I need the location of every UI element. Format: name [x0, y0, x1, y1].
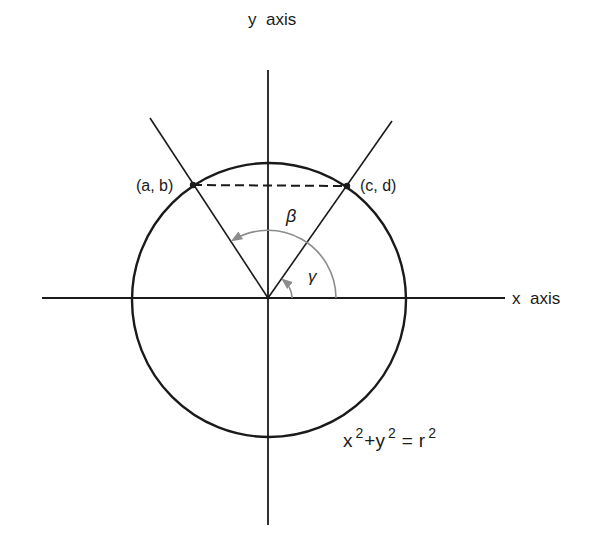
- y-axis-label: y axis: [248, 10, 296, 29]
- circle: [132, 163, 406, 437]
- beta-label: β: [285, 206, 296, 226]
- point-c-d: [344, 183, 350, 189]
- point-a-b: [190, 182, 196, 188]
- point-a-b-label: (a, b): [136, 177, 173, 194]
- point-c-d-label: (c, d): [360, 177, 396, 194]
- circle-equation: x2+y2=r2: [343, 425, 436, 451]
- dashed-chord: [193, 185, 347, 186]
- gamma-label: γ: [308, 267, 318, 286]
- svg-text:x2+y2=r2: x2+y2=r2: [343, 425, 436, 451]
- x-axis-label: x axis: [512, 289, 560, 308]
- gamma-arc: [283, 280, 292, 298]
- circle-diagram: y axis x axis (a, b) (c, d) β γ x2+y2=r2: [0, 0, 599, 542]
- beta-arc: [233, 230, 336, 298]
